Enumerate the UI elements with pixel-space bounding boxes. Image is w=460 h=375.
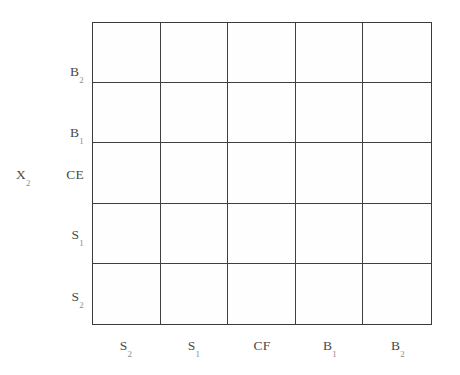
grid-cell [161,264,229,324]
grid-cell [296,264,364,324]
x-tick-subscript-3: 1 [332,349,337,359]
x-tick-subscript-0: 2 [128,349,133,359]
grid-cell [161,204,229,264]
x-tick-base-4: B [391,338,400,353]
x-tick-label-3: B1 [296,336,364,360]
y-tick-label-4: S2 [71,287,84,307]
x-tick-base-1: S [188,338,196,353]
y-tick-subscript-4: 2 [79,300,84,310]
y-tick-label-1: B1 [70,123,84,143]
grid-cell [161,23,229,83]
x-tick-label-2: CF [228,336,296,360]
y-tick-label-2: CE [66,165,84,185]
grid-cell [363,83,431,143]
x-tick-label-4: B2 [364,336,432,360]
x-tick-label-1: S1 [160,336,228,360]
x-tick-base-3: B [323,338,332,353]
grid-cell [296,143,364,203]
grid-cell [296,23,364,83]
y-axis-title: X2 [16,165,31,185]
y-tick-subscript-3: 1 [79,238,84,248]
y-axis-title-subscript: 2 [26,178,31,188]
matrix-grid [92,22,432,325]
x-tick-label-0: S2 [92,336,160,360]
grid-cell [228,143,296,203]
grid-cell [363,264,431,324]
grid-cell [296,204,364,264]
grid-cell [228,23,296,83]
x-tick-subscript-4: 2 [400,349,405,359]
grid-cell [296,83,364,143]
grid-cell [93,143,161,203]
grid-cell [93,204,161,264]
x-tick-subscript-1: 1 [196,349,201,359]
grid-cell [93,83,161,143]
y-tick-label-0: B2 [70,62,84,82]
grid-cell [161,83,229,143]
matrix-grid-figure: X2 B2 B1 CE S1 S2 [0,0,460,375]
grid-cell [228,83,296,143]
x-axis-tick-labels: S2 S1 CF B1 B2 [92,336,432,360]
grid-cell [161,143,229,203]
y-tick-base-0: B [70,64,79,79]
y-tick-label-3: S1 [71,225,84,245]
y-tick-subscript-0: 2 [79,75,84,85]
y-tick-subscript-1: 1 [79,136,84,146]
x-tick-base-0: S [120,338,128,353]
grid-cell [228,204,296,264]
grid-cell [93,264,161,324]
grid-cell [93,23,161,83]
y-axis-tick-labels: B2 B1 CE S1 S2 [44,22,88,325]
grid-cell [363,23,431,83]
grid-cell [363,204,431,264]
y-tick-base-2: CE [66,167,84,182]
x-tick-base-2: CF [253,338,270,353]
grid-cell [228,264,296,324]
y-tick-base-1: B [70,125,79,140]
grid-cell [363,143,431,203]
y-axis-title-base: X [16,167,26,182]
